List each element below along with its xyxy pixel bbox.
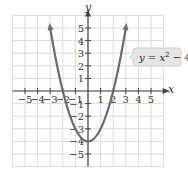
x-tick-label: 5 [148, 94, 154, 105]
y-tick-label: 1 [78, 73, 84, 84]
equation-callout: y = x2 − 4 [129, 48, 188, 66]
y-axis-label: y [84, 1, 92, 14]
equation-label: y = x2 − 4 [138, 51, 188, 63]
y-tick-label: 3 [78, 48, 84, 59]
x-tick-label: 1 [97, 94, 103, 105]
y-tick-label: 4 [78, 36, 84, 47]
equation-eq: = [145, 52, 160, 63]
parabola-chart: −5−4−3−2−11234554321−1−2−3−4−5 y x y = x… [0, 0, 188, 172]
axes [12, 9, 169, 166]
y-tick-label: −5 [69, 149, 84, 160]
x-axis-label: x [168, 83, 175, 96]
x-tick-label: 4 [135, 94, 141, 105]
x-tick-label: 3 [123, 94, 129, 105]
equation-rest: − 4 [170, 52, 188, 63]
y-tick-label: 5 [78, 23, 84, 34]
y-tick-label: 2 [78, 61, 84, 72]
y-tick-label: −1 [69, 99, 84, 110]
